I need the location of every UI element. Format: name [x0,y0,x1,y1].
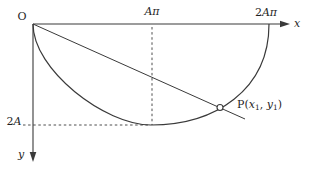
x-end-tick-variable: Aπ [262,6,277,19]
x-axis-arrowhead-icon [280,21,290,28]
point-p-prefix: P( [237,98,249,111]
y-tick-label: 2A [7,116,22,127]
y-axis-label: y [18,149,24,160]
cycloid-curve [33,24,269,125]
x-axis-label: x [294,18,300,29]
y-tick-variable: A [14,115,22,128]
point-p-label: P(x1, y1) [237,99,282,112]
x-end-tick-label: 2Aπ [255,7,277,18]
point-p-suffix: ) [278,98,282,111]
origin-label: O [17,11,26,22]
secant-line [33,24,245,119]
cycloid-diagram: O Aπ 2Aπ x 2A y P(x1, y1) [0,0,315,173]
y-axis-arrowhead-icon [30,152,37,162]
point-p-marker [217,105,223,111]
point-p-separator: , [260,98,267,111]
x-mid-tick-label: Aπ [144,6,159,17]
y-tick-number: 2 [7,115,14,128]
diagram-canvas [0,0,315,173]
x-end-tick-number: 2 [255,6,262,19]
